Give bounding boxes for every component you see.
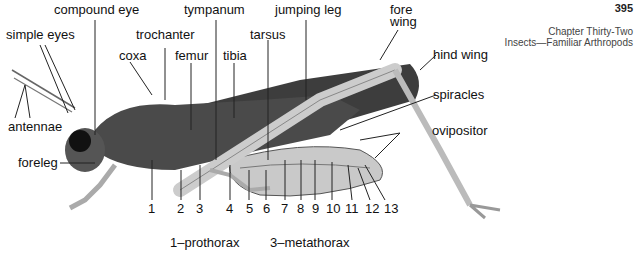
segment-number-8: 8 [297, 202, 304, 216]
segment-number-2: 2 [177, 202, 184, 216]
label-spiracles: spiracles [433, 88, 484, 102]
segment-number-3: 3 [196, 202, 203, 216]
label-antennae: antennae [8, 120, 62, 134]
legend-metathorax: 3–metathorax [270, 235, 350, 250]
segment-number-9: 9 [312, 202, 319, 216]
label-fore-wing-line2: wing [390, 15, 417, 29]
segment-number-11: 11 [345, 202, 359, 216]
segment-number-4: 4 [226, 202, 233, 216]
label-hind-wing: hind wing [433, 48, 488, 62]
label-femur: femur [175, 49, 208, 63]
label-foreleg: foreleg [18, 156, 58, 170]
label-compound-eye: compound eye [54, 3, 139, 17]
label-tibia: tibia [223, 49, 247, 63]
segment-number-10: 10 [326, 202, 340, 216]
segment-number-13: 13 [384, 202, 398, 216]
legend-prothorax: 1–prothorax [170, 235, 239, 250]
segment-number-7: 7 [281, 202, 288, 216]
label-tympanum: tympanum [184, 3, 245, 17]
label-ovipositor: ovipositor [432, 124, 488, 138]
label-trochanter: trochanter [136, 28, 195, 42]
segment-number-1: 1 [148, 202, 155, 216]
label-jumping-leg: jumping leg [275, 3, 342, 17]
label-coxa: coxa [119, 49, 146, 63]
label-tarsus: tarsus [250, 28, 285, 42]
segment-number-6: 6 [263, 202, 270, 216]
label-simple-eyes: simple eyes [6, 28, 75, 42]
segment-number-5: 5 [246, 202, 253, 216]
segment-number-12: 12 [365, 202, 379, 216]
